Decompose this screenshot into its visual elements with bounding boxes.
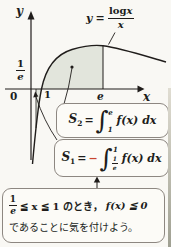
note-fx-condition: f(x) ≦ 0 [106, 200, 148, 211]
s2-integrand: f(x) dx [117, 114, 157, 127]
s2-equals: = [84, 114, 93, 127]
s1-integrand: f(x) dx [122, 152, 162, 165]
curve-equation-label: y = logx x [86, 6, 134, 30]
curve-eq-lhs: y [86, 12, 92, 25]
note-line-1: 1 e ≦ x ≦ 1 のとき， f(x) ≦ 0 [9, 192, 159, 218]
s1-lower-limit-fraction: 1 e [112, 156, 118, 170]
page-edge-shadow [168, 88, 171, 247]
curve-eq-denominator: x [118, 20, 124, 30]
y-axis-arrowhead [28, 11, 35, 20]
s1-upper-limit: 1 [113, 146, 118, 153]
note-line-2: であることに気を付けよう。 [9, 221, 159, 235]
s1-formula-box: S1 = − ∫ 1 1 e f(x) dx [54, 139, 169, 177]
inv-e-denominator: e [17, 72, 23, 82]
log-text: log [109, 5, 126, 16]
s1-lower-num: 1 [113, 156, 117, 162]
s2-lower-limit: 1 [108, 126, 113, 133]
s2-integral: ∫ e 1 [96, 108, 115, 134]
origin-label: 0 [10, 91, 17, 102]
s2-upper-limit: e [108, 109, 112, 116]
tick-label-1: 1 [44, 90, 51, 100]
curve-eq-fraction: logx x [108, 6, 134, 30]
s1-lower-den: e [113, 165, 117, 171]
curve-label-leader [109, 33, 116, 45]
s1-subscript: 1 [70, 157, 75, 166]
curve-eq-numerator: logx [109, 6, 132, 16]
s2-formula-box: S2 = ∫ e 1 f(x) dx [56, 103, 169, 138]
note-arrowhead [94, 177, 100, 183]
s1-name: S1 [61, 150, 75, 166]
num-variable: x [126, 5, 132, 16]
y-axis-label: y [16, 5, 23, 17]
s1-equals: = [77, 152, 86, 165]
s1-integral-limits: 1 1 e [112, 145, 118, 171]
s1-minus-sign: − [89, 152, 98, 165]
inv-e-numerator: 1 [17, 59, 24, 69]
note-frac-den: e [10, 207, 16, 216]
s1-integral: ∫ 1 1 e [100, 145, 120, 171]
note-inequality: ≦ x ≦ 1 のとき， [20, 198, 103, 213]
s2-name: S2 [69, 112, 83, 128]
textbook-figure: y x 0 1 e 1 e y = logx x S2 = ∫ e 1 f(x)… [0, 0, 171, 247]
note-box: 1 e ≦ x ≦ 1 のとき， f(x) ≦ 0 であることに気を付けよう。 [2, 188, 165, 243]
s2-subscript: 2 [77, 120, 82, 129]
s1-letter: S [61, 150, 70, 164]
note-fraction: 1 e [9, 195, 17, 215]
s2-letter: S [69, 112, 78, 126]
note-frac-num: 1 [10, 195, 16, 204]
x-axis-label: x [143, 91, 150, 103]
tick-label-e: e [97, 91, 104, 102]
curve-eq-equals: = [95, 12, 104, 25]
tick-label-inv-e: 1 e [16, 59, 25, 82]
s2-integral-limits: e 1 [108, 108, 113, 134]
